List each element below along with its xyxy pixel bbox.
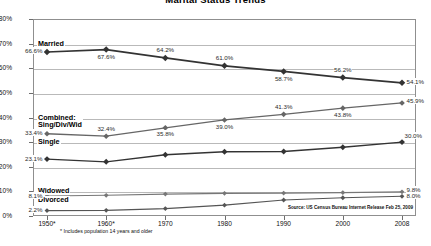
data-point-label: 33.4%	[24, 129, 43, 136]
data-point-label: 54.1%	[406, 78, 425, 85]
y-axis-tick-mark	[29, 216, 33, 217]
y-axis-tick-mark	[29, 118, 33, 119]
gridline	[34, 69, 415, 70]
x-axis-tick-mark	[106, 216, 107, 220]
chart-title: Marital Status Trends	[0, 0, 431, 5]
x-axis-tick-mark	[225, 216, 226, 220]
plot-area	[33, 19, 416, 216]
data-point-label: 30.0%	[404, 132, 423, 139]
data-point-label: 35.8%	[156, 130, 175, 137]
x-axis-tick-label: 1960*	[76, 220, 136, 227]
y-axis-tick-label: 70%	[0, 40, 12, 47]
series-label-combined-line2: Sing/Div/Wid	[38, 121, 82, 129]
y-axis-tick-mark	[29, 142, 33, 143]
x-axis-tick-label: 1980	[195, 220, 255, 227]
x-axis-tick-label: 1970	[135, 220, 195, 227]
y-axis-tick-label: 0%	[0, 212, 12, 219]
data-point-label: 64.2%	[156, 46, 175, 53]
x-axis-tick-label: 1990	[254, 220, 314, 227]
gridline	[34, 119, 415, 120]
data-point-label: 67.6%	[97, 53, 116, 60]
data-point-label: 58.7%	[274, 75, 293, 82]
x-axis-tick-label: 2000	[313, 220, 373, 227]
x-axis-tick-label: 1950*	[17, 220, 77, 227]
data-point-label: 32.4%	[97, 125, 116, 132]
chart-container: Marital Status Trends 0%10%20%30%40%50%6…	[0, 0, 431, 246]
x-axis-tick-label: 2008	[372, 220, 431, 227]
gridline	[34, 168, 415, 169]
x-axis-tick-mark	[47, 216, 48, 220]
data-point-label: 45.9%	[406, 97, 425, 104]
y-axis-tick-mark	[29, 93, 33, 94]
data-point-label: 2.2%	[28, 206, 43, 213]
data-point-label: 39.0%	[215, 123, 234, 130]
data-point-label: 8.0%	[406, 192, 421, 199]
footnote: * Includes population 14 years and older	[60, 228, 153, 234]
y-axis-tick-label: 80%	[0, 15, 12, 22]
source-note: Source: US Census Bureau Internet Releas…	[288, 205, 413, 210]
gridline	[34, 94, 415, 95]
gridline	[34, 143, 415, 144]
series-label-combined: Combined:Sing/Div/Wid	[37, 114, 83, 129]
y-axis-tick-label: 60%	[0, 64, 12, 71]
series-label-married: Married	[37, 40, 65, 48]
gridline	[34, 45, 415, 46]
y-axis-tick-label: 30%	[0, 138, 12, 145]
y-axis-tick-mark	[29, 19, 33, 20]
y-axis-tick-label: 40%	[0, 114, 12, 121]
data-point-label: 61.0%	[215, 54, 234, 61]
y-axis-tick-label: 20%	[0, 163, 12, 170]
y-axis-tick-mark	[29, 68, 33, 69]
data-point-label: 8.1%	[28, 192, 43, 199]
x-axis-tick-mark	[165, 216, 166, 220]
y-axis-tick-mark	[29, 44, 33, 45]
data-point-label: 23.1%	[24, 155, 43, 162]
y-axis-tick-label: 50%	[0, 89, 12, 96]
x-axis-tick-mark	[402, 216, 403, 220]
x-axis-tick-mark	[284, 216, 285, 220]
data-point-label: 66.6%	[24, 47, 43, 54]
gridline	[34, 192, 415, 193]
y-axis-tick-mark	[29, 167, 33, 168]
x-axis-tick-mark	[343, 216, 344, 220]
data-point-label: 41.3%	[274, 103, 293, 110]
y-axis-tick-label: 10%	[0, 187, 12, 194]
data-point-label: 56.2%	[334, 66, 353, 73]
series-label-single: Single	[37, 138, 61, 146]
data-point-label: 43.8%	[334, 111, 353, 118]
